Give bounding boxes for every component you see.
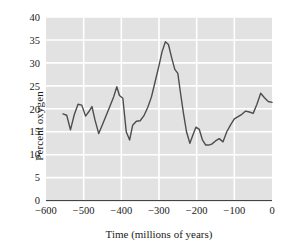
y-tick-label: 30 [14,57,43,68]
y-tick-label: 35 [14,34,43,45]
oxygen-time-chart: Percent oxygen 40 35 30 25 20 15 10 5 0 … [0,0,289,251]
y-tick-label: 40 [14,12,43,23]
x-axis-title: Time (millions of years) [46,228,272,240]
y-tick-label: 5 [14,172,43,183]
x-tick-label: 0 [269,205,274,216]
y-tick-label: 0 [14,195,43,206]
y-tick-label: 15 [14,126,43,137]
y-tick-label: 25 [14,80,43,91]
x-tick-label: −500 [73,205,95,216]
x-tick-label: −200 [186,205,208,216]
y-tick-label: 20 [14,103,43,114]
x-tick-label: −400 [110,205,132,216]
x-tick-label: −600 [35,205,57,216]
y-tick-label: 10 [14,149,43,160]
x-tick-label: −100 [223,205,245,216]
x-tick-label: −300 [148,205,170,216]
